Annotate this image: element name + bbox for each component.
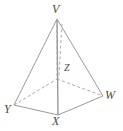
vertex-label-X: X: [52, 115, 59, 127]
edge-V-back-hidden-curve: [59, 24, 62, 76]
vertex-label-Y: Y: [4, 103, 11, 115]
vertex-label-W: W: [105, 89, 115, 101]
pyramid-diagram-figure: V Y X W Z: [0, 0, 123, 131]
pyramid-drawing-canvas: [0, 0, 123, 131]
edge-V-W: [57, 19, 103, 96]
vertex-label-Z: Z: [64, 63, 70, 73]
edge-V-Y: [14, 19, 57, 105]
edge-X-W: [58, 96, 103, 115]
edge-back-W-hidden: [57, 79, 103, 96]
vertex-label-V: V: [52, 3, 59, 15]
edge-V-X: [57, 19, 58, 115]
